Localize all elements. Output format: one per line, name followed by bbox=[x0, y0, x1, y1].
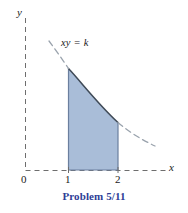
y-axis-label: y bbox=[17, 7, 22, 18]
figure-caption: Problem 5/11 bbox=[0, 190, 188, 202]
shaded-region bbox=[69, 69, 119, 171]
plot-svg bbox=[0, 0, 188, 213]
x-axis-label: x bbox=[169, 162, 174, 173]
hyperbola-curve-dashed-lower bbox=[118, 123, 155, 147]
curve-equation-label: xy = k bbox=[61, 38, 89, 49]
x-tick-label-1: 1 bbox=[65, 174, 71, 185]
x-tick-label-2: 2 bbox=[115, 174, 121, 185]
x-tick-label-0: 0 bbox=[21, 174, 27, 185]
figure-container: y x 0 1 2 xy = k Problem 5/11 bbox=[0, 0, 188, 213]
